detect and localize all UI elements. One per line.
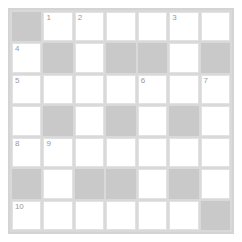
- crossword-cell[interactable]: 7: [201, 75, 230, 104]
- crossword-clue-number: 9: [46, 139, 50, 149]
- crossword-blocked-cell: [75, 169, 104, 198]
- crossword-clue-number: 7: [204, 76, 208, 86]
- crossword-cell[interactable]: [43, 169, 72, 198]
- crossword-clue-number: 4: [15, 44, 19, 54]
- crossword-clue-number: 3: [172, 13, 176, 23]
- crossword-blocked-cell: [43, 43, 72, 72]
- crossword-cell[interactable]: [201, 169, 230, 198]
- crossword-clue-number: 6: [141, 76, 145, 86]
- crossword-cell[interactable]: 2: [75, 12, 104, 41]
- crossword-cell[interactable]: [201, 138, 230, 167]
- crossword-cell[interactable]: [12, 106, 41, 135]
- crossword-cell[interactable]: [169, 138, 198, 167]
- crossword-cell[interactable]: [106, 75, 135, 104]
- crossword-cell[interactable]: 10: [12, 201, 41, 230]
- crossword-cell[interactable]: 8: [12, 138, 41, 167]
- crossword-blocked-cell: [106, 169, 135, 198]
- crossword-clue-number: 1: [46, 13, 50, 23]
- crossword-cell[interactable]: [138, 106, 167, 135]
- crossword-blocked-cell: [138, 43, 167, 72]
- crossword-blocked-cell: [169, 169, 198, 198]
- crossword-cell[interactable]: [138, 12, 167, 41]
- crossword-clue-number: 10: [15, 202, 24, 212]
- crossword-cell[interactable]: [201, 12, 230, 41]
- crossword-blocked-cell: [43, 106, 72, 135]
- crossword-blocked-cell: [201, 201, 230, 230]
- crossword-blocked-cell: [106, 106, 135, 135]
- crossword-cell[interactable]: [106, 12, 135, 41]
- crossword-clue-number: 2: [78, 13, 82, 23]
- crossword-cell[interactable]: [75, 201, 104, 230]
- crossword-blocked-cell: [12, 169, 41, 198]
- crossword-blocked-cell: [12, 12, 41, 41]
- crossword-cell[interactable]: [43, 201, 72, 230]
- crossword-cell[interactable]: 1: [43, 12, 72, 41]
- crossword-cell[interactable]: [138, 138, 167, 167]
- crossword-cell[interactable]: [201, 106, 230, 135]
- crossword-cell[interactable]: [43, 75, 72, 104]
- crossword-cell[interactable]: [75, 75, 104, 104]
- crossword-blocked-cell: [169, 106, 198, 135]
- crossword-cell[interactable]: [75, 138, 104, 167]
- crossword-cell[interactable]: [169, 75, 198, 104]
- crossword-clue-number: 8: [15, 139, 19, 149]
- crossword-grid[interactable]: 12345678910: [8, 8, 234, 234]
- crossword-cell[interactable]: 9: [43, 138, 72, 167]
- crossword-cell[interactable]: [138, 201, 167, 230]
- crossword-cell[interactable]: [169, 43, 198, 72]
- crossword-cell[interactable]: [106, 201, 135, 230]
- crossword-puzzle: 12345678910: [0, 0, 242, 242]
- crossword-cell[interactable]: 6: [138, 75, 167, 104]
- crossword-cell[interactable]: [106, 138, 135, 167]
- crossword-cell[interactable]: 5: [12, 75, 41, 104]
- crossword-clue-number: 5: [15, 76, 19, 86]
- crossword-blocked-cell: [201, 43, 230, 72]
- crossword-cell[interactable]: 3: [169, 12, 198, 41]
- crossword-cell[interactable]: [169, 201, 198, 230]
- crossword-cell[interactable]: 4: [12, 43, 41, 72]
- crossword-cell[interactable]: [75, 106, 104, 135]
- crossword-cell[interactable]: [75, 43, 104, 72]
- crossword-blocked-cell: [106, 43, 135, 72]
- crossword-cell[interactable]: [138, 169, 167, 198]
